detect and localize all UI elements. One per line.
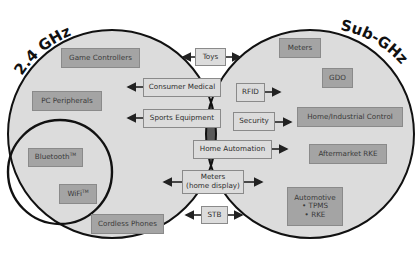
label-consumer-medical: Consumer Medical bbox=[149, 83, 215, 92]
label-toys: Toys bbox=[203, 53, 219, 62]
box-gdo: GDO bbox=[322, 68, 353, 88]
label-meters: Meters bbox=[288, 44, 313, 53]
label-gdo: GDO bbox=[329, 74, 346, 83]
label-pc-peripherals: PC Peripherals bbox=[41, 97, 93, 106]
label-meters-home-display-line2: (home display) bbox=[186, 182, 240, 191]
box-automotive: Automotive • TPMS • RKE bbox=[287, 187, 343, 226]
box-meters: Meters bbox=[279, 38, 321, 58]
box-home-industrial-control: Home/Industrial Control bbox=[297, 107, 403, 127]
box-home-automation: Home Automation bbox=[193, 140, 272, 159]
venn-diagram: 2.4 GHz Sub-GHz bbox=[0, 0, 420, 264]
box-cordless-phones: Cordless Phones bbox=[91, 214, 164, 234]
label-cordless-phones: Cordless Phones bbox=[98, 220, 157, 229]
box-consumer-medical: Consumer Medical bbox=[143, 78, 221, 97]
label-bluetooth: BluetoothTM bbox=[35, 153, 77, 162]
label-automotive-rke: • RKE bbox=[305, 211, 326, 220]
box-aftermarket-rke: Aftermarket RKE bbox=[309, 144, 387, 164]
box-pc-peripherals: PC Peripherals bbox=[32, 91, 102, 111]
label-sports-equipment: Sports Equipment bbox=[150, 114, 214, 123]
box-bluetooth: BluetoothTM bbox=[28, 148, 83, 167]
box-rfid: RFID bbox=[236, 83, 265, 102]
box-stb: STB bbox=[201, 206, 228, 224]
label-stb: STB bbox=[208, 211, 222, 220]
label-security: Security bbox=[239, 117, 269, 126]
box-sports-equipment: Sports Equipment bbox=[143, 109, 221, 128]
box-game-controllers: Game Controllers bbox=[61, 48, 140, 68]
box-toys: Toys bbox=[195, 48, 226, 66]
box-security: Security bbox=[233, 112, 275, 131]
box-meters-home-display: Meters (home display) bbox=[182, 170, 244, 194]
label-game-controllers: Game Controllers bbox=[69, 54, 132, 63]
label-home-automation: Home Automation bbox=[200, 145, 265, 154]
box-wifi: WiFiTM bbox=[59, 184, 97, 204]
label-wifi: WiFiTM bbox=[67, 190, 88, 199]
label-rfid: RFID bbox=[242, 88, 259, 97]
label-aftermarket-rke: Aftermarket RKE bbox=[318, 150, 377, 159]
label-home-industrial-control: Home/Industrial Control bbox=[307, 113, 393, 122]
